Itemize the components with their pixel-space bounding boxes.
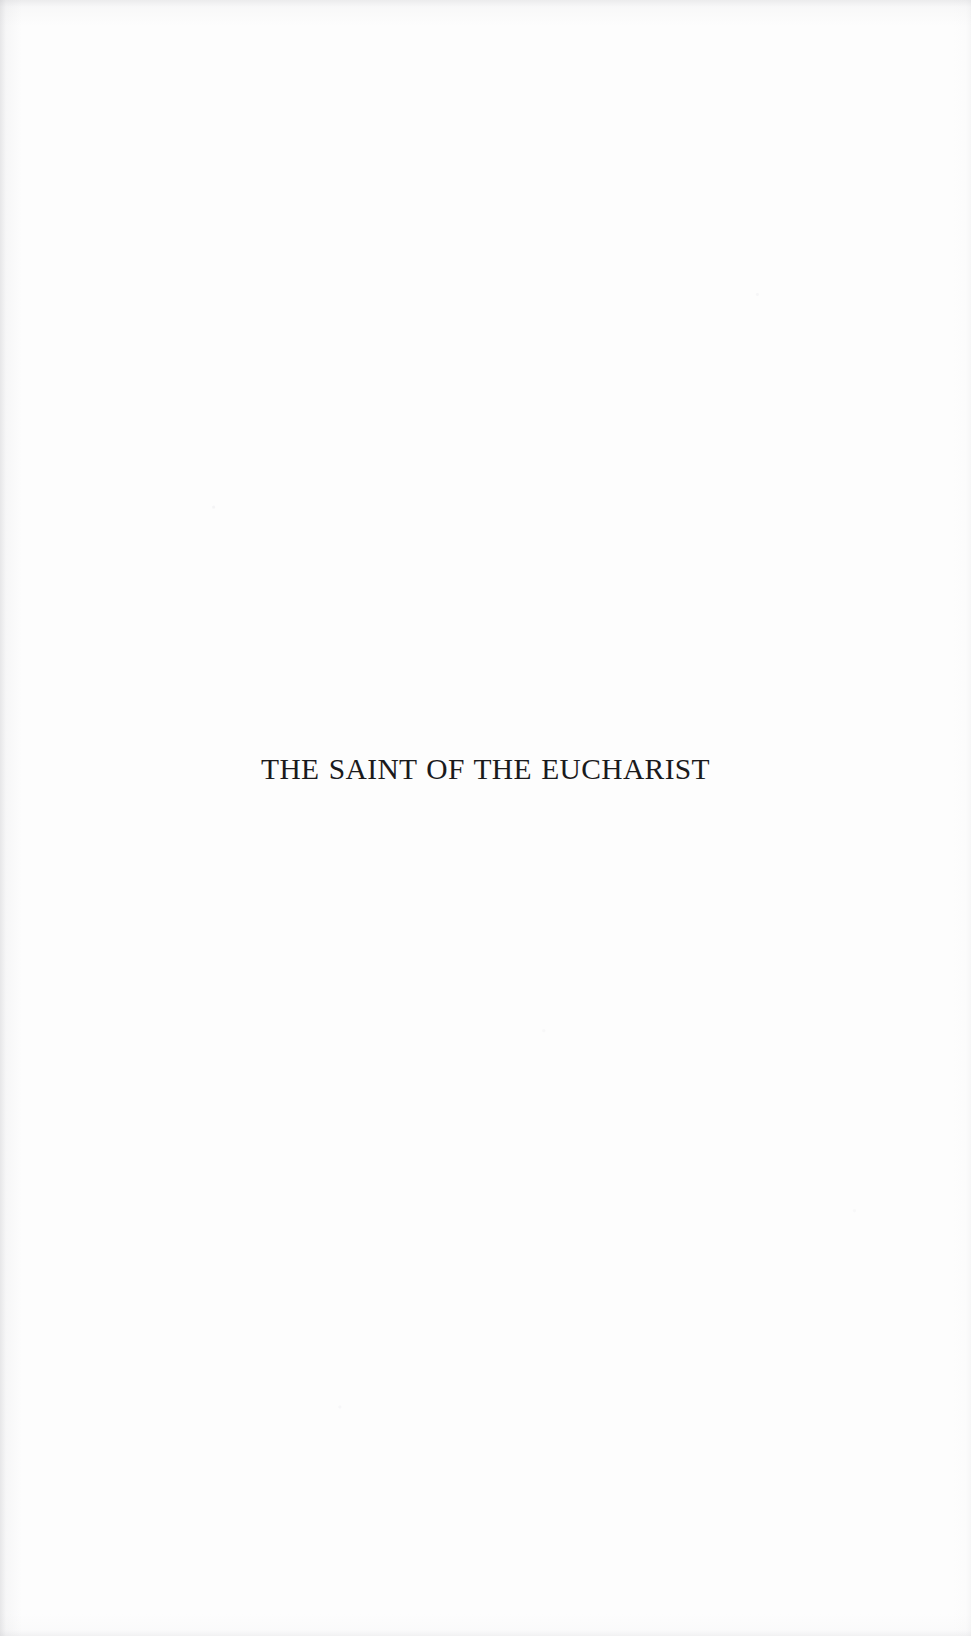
half-title-text: THE SAINT OF THE EUCHARIST [261, 752, 710, 787]
paper-grain-texture [0, 0, 971, 1636]
scan-edge-vignette [0, 0, 971, 1636]
book-page: THE SAINT OF THE EUCHARIST [0, 0, 971, 1636]
title-block: THE SAINT OF THE EUCHARIST [0, 752, 971, 787]
